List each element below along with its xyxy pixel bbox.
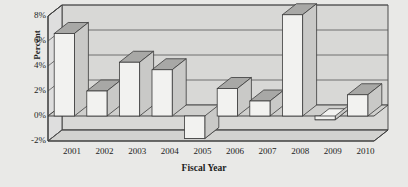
bar-2004 bbox=[152, 59, 186, 116]
x-tick-label: 2007 bbox=[251, 146, 285, 156]
x-tick-label: 2005 bbox=[185, 146, 219, 156]
x-tick-label: 2004 bbox=[153, 146, 187, 156]
x-tick-label: 2008 bbox=[283, 146, 317, 156]
x-tick-label: 2006 bbox=[218, 146, 252, 156]
bar-2008 bbox=[282, 4, 316, 116]
plot-area bbox=[0, 0, 408, 187]
bar-2003 bbox=[119, 51, 153, 116]
bar-2001 bbox=[54, 23, 88, 117]
bar-chart: Percent -2%0%2%4%6%8% 200120022003200420… bbox=[0, 0, 408, 187]
plot-floor bbox=[48, 130, 388, 141]
x-axis-title: Fiscal Year bbox=[0, 163, 408, 173]
x-tick-label: 2010 bbox=[348, 146, 382, 156]
x-tick-label: 2001 bbox=[55, 146, 89, 156]
x-tick-label: 2002 bbox=[88, 146, 122, 156]
x-tick-label: 2009 bbox=[316, 146, 350, 156]
x-tick-label: 2003 bbox=[120, 146, 154, 156]
